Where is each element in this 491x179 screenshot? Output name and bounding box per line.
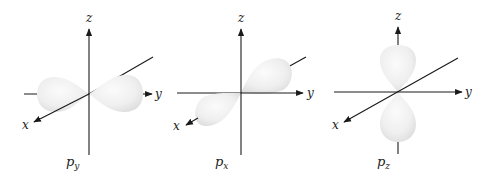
orbital-caption: pz [377, 154, 390, 171]
y-axis-label: y [306, 86, 314, 100]
x-axis-label: x [173, 119, 180, 133]
orbital-lobe-positive-x [241, 58, 292, 93]
x-axis-label: x [332, 118, 339, 132]
orbital-lobe-negative-z [380, 92, 416, 142]
orbital-lobe-negative-x [195, 93, 241, 126]
y-axis-label: y [154, 87, 162, 101]
orbital-caption: py [66, 154, 80, 171]
x-axis-label: x [22, 118, 29, 132]
z-axis-label: z [85, 11, 93, 25]
p-orbitals-figure: z y x py z y x px [0, 0, 491, 179]
z-axis-label: z [237, 11, 245, 25]
y-axis-label: y [464, 85, 472, 99]
x-axis [186, 118, 198, 125]
panel-py: z y x py [22, 11, 162, 171]
panel-px: z y x px [173, 11, 314, 171]
orbital-lobe-positive-y [89, 75, 143, 112]
panel-pz: z y x pz [332, 9, 472, 171]
z-axis-label: z [394, 9, 402, 23]
orbital-caption: px [215, 154, 228, 171]
